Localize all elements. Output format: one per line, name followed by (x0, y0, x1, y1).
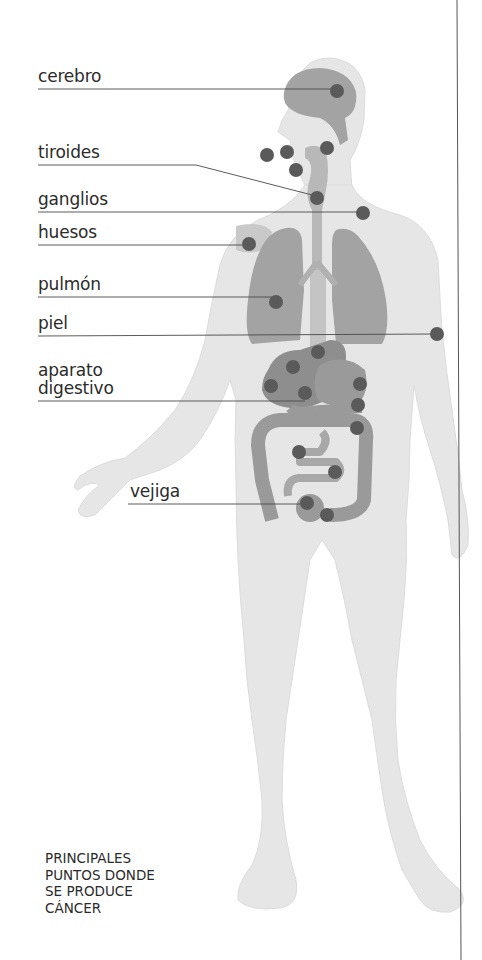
caption-line-1: PRINCIPALES (45, 850, 155, 867)
label-pulmon: pulmón (38, 275, 101, 293)
dot-huesos (242, 237, 256, 251)
dot-digestive-1 (311, 345, 325, 359)
dot-digestive-7 (350, 421, 364, 435)
dot-digestive-6 (351, 398, 365, 412)
label-aparato-digestivo-line2: digestivo (38, 379, 114, 397)
dot-tiroides (310, 191, 324, 205)
label-piel: piel (38, 314, 68, 332)
dot-digestive-5 (353, 377, 367, 391)
dot-digestive-9 (328, 465, 342, 479)
dot-digestive-2 (286, 360, 300, 374)
dot-digestive-3 (264, 379, 278, 393)
dot-pulmon (269, 295, 283, 309)
dot-mouth-1 (260, 148, 274, 162)
caption-line-4: CÁNCER (45, 900, 155, 917)
label-aparato-digestivo-line1: aparato (38, 361, 103, 379)
caption-line-2: PUNTOS DONDE (45, 867, 155, 884)
label-ganglios: ganglios (38, 190, 108, 208)
diagram-caption: PRINCIPALES PUNTOS DONDE SE PRODUCE CÁNC… (45, 850, 155, 916)
dot-throat (320, 141, 334, 155)
label-vejiga: vejiga (130, 482, 180, 500)
dot-digestive-4 (298, 386, 312, 400)
duodenum (290, 408, 362, 412)
dot-vejiga (300, 496, 314, 510)
dot-mouth-3 (289, 163, 303, 177)
dot-cerebro (330, 84, 344, 98)
label-huesos: huesos (38, 223, 97, 241)
label-cerebro: cerebro (38, 67, 101, 85)
dot-digestive-8 (292, 445, 306, 459)
dot-ganglios (356, 206, 370, 220)
dot-rectum (320, 508, 334, 522)
spine (310, 270, 326, 350)
dot-mouth-2 (280, 145, 294, 159)
caption-line-3: SE PRODUCE (45, 883, 155, 900)
label-tiroides: tiroides (38, 143, 100, 161)
dot-piel (430, 327, 444, 341)
